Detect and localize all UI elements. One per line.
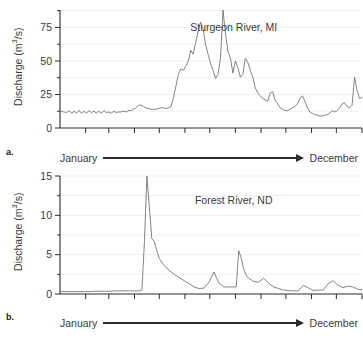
arrow-head-icon bbox=[296, 154, 304, 162]
y-tick-label: 0 bbox=[46, 288, 52, 300]
x-axis-range-b: January December bbox=[60, 315, 358, 331]
arrow-line-icon bbox=[103, 157, 296, 159]
series-annotation-label: Sturgeon River, MI bbox=[190, 21, 277, 33]
x-axis-start-label-b: January bbox=[60, 317, 97, 329]
chart-svg-b: 051015Forest River, ND bbox=[40, 172, 362, 304]
y-tick-label: 75 bbox=[40, 21, 52, 33]
panel-sturgeon-river: a. Discharge (m3/s) 0255075Sturgeon Rive… bbox=[0, 0, 363, 170]
y-tick-label: 15 bbox=[40, 170, 52, 182]
y-axis-label-a: Discharge (m3/s) bbox=[10, 12, 24, 122]
plot-area-a: 0255075Sturgeon River, MI bbox=[40, 6, 362, 138]
x-axis-start-label-a: January bbox=[60, 152, 97, 164]
x-axis-range-a: January December bbox=[60, 150, 358, 166]
x-axis-end-label-a: December bbox=[310, 152, 358, 164]
x-axis-end-label-b: December bbox=[310, 317, 358, 329]
panel-letter-a: a. bbox=[6, 147, 14, 157]
panel-letter-b: b. bbox=[6, 312, 14, 322]
plot-area-b: 051015Forest River, ND bbox=[40, 172, 362, 304]
arrow-line-icon bbox=[103, 322, 296, 324]
chart-svg-a: 0255075Sturgeon River, MI bbox=[40, 6, 362, 138]
y-tick-label: 50 bbox=[40, 55, 52, 67]
y-tick-label: 0 bbox=[46, 122, 52, 134]
series-annotation-label: Forest River, ND bbox=[195, 194, 273, 206]
y-axis-label-b: Discharge (m3/s) bbox=[10, 177, 24, 287]
x-axis-arrow-a bbox=[103, 153, 303, 163]
x-axis-arrow-b bbox=[103, 318, 303, 328]
y-tick-label: 10 bbox=[40, 209, 52, 221]
arrow-head-icon bbox=[296, 319, 304, 327]
panel-forest-river: b. Discharge (m3/s) 051015Forest River, … bbox=[0, 170, 363, 340]
y-tick-label: 5 bbox=[46, 248, 52, 260]
y-tick-label: 25 bbox=[40, 88, 52, 100]
